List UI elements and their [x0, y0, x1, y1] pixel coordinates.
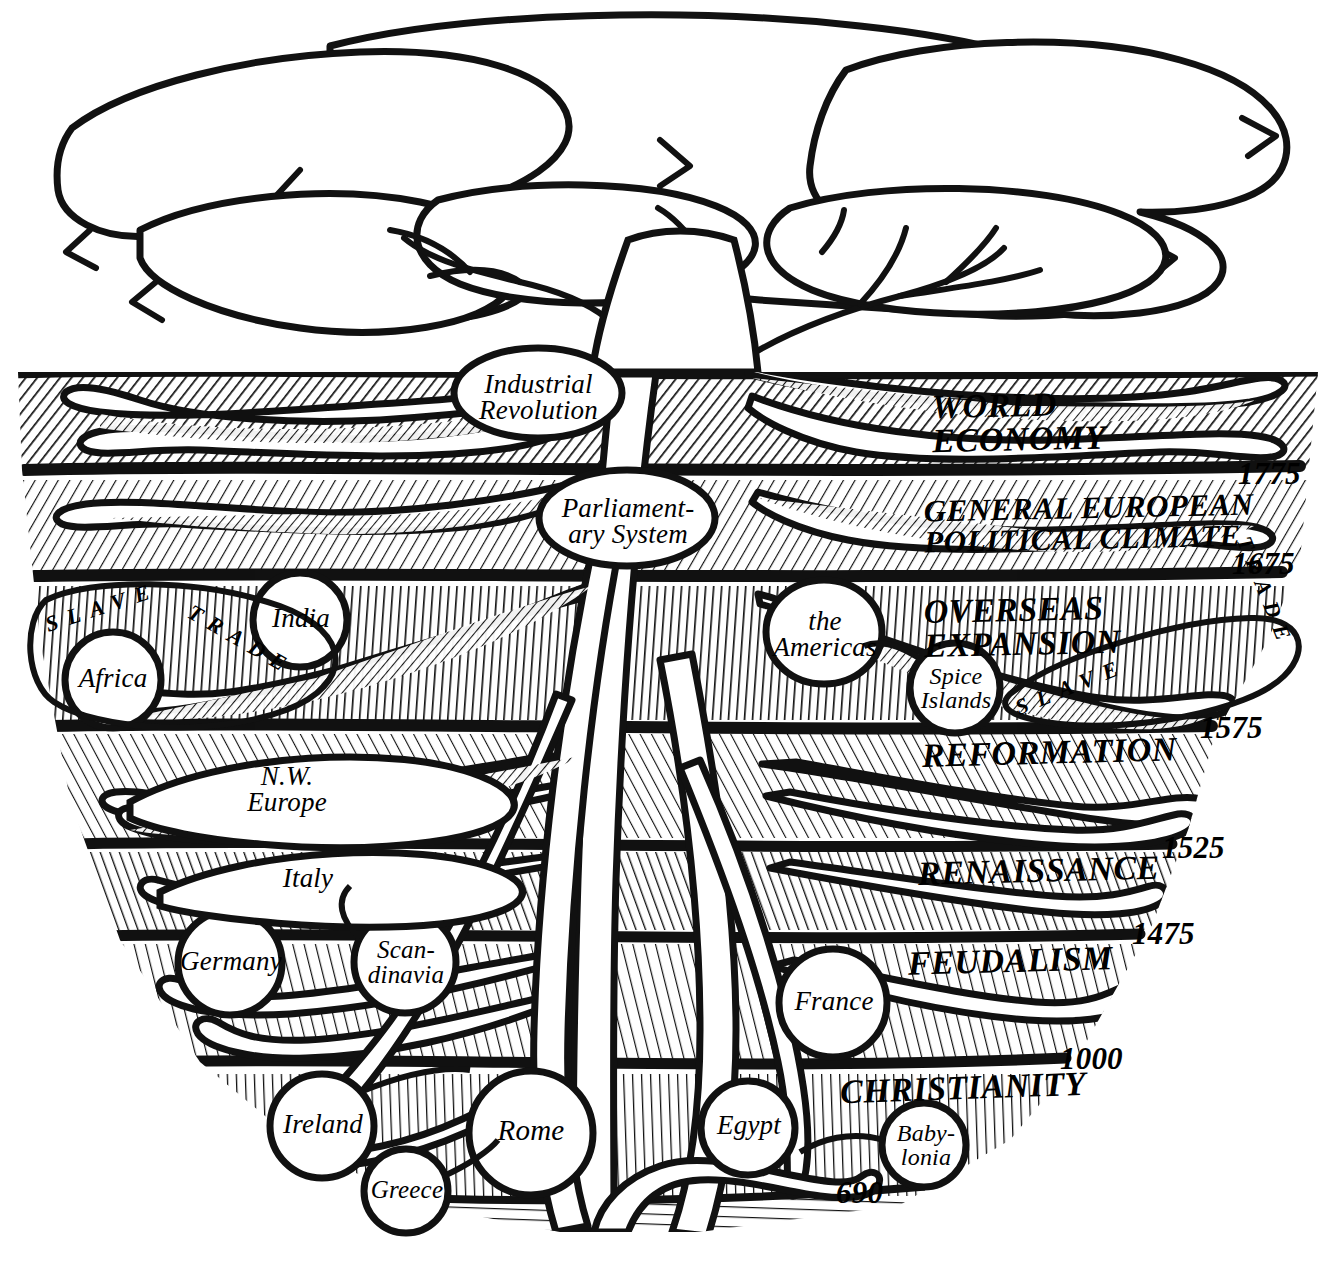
- illustration-canvas: IndustrialRevolution Parliament-ary Syst…: [0, 0, 1325, 1280]
- node-shape-egypt: [701, 1081, 795, 1175]
- canopy-notch-5: [132, 282, 162, 320]
- stratum-bedrock: [0, 1196, 1325, 1280]
- node-shape-spice-islands: [910, 643, 1000, 733]
- node-shape-rome: [469, 1071, 593, 1195]
- node-shape-ireland: [270, 1074, 374, 1178]
- canopy-lobe-lower-right: [767, 188, 1166, 314]
- tree-diagram-artwork: [0, 0, 1325, 1280]
- node-shape-babylonia: [882, 1103, 966, 1187]
- node-shape-greece: [364, 1149, 448, 1233]
- divider-1775: [24, 466, 1300, 470]
- node-shape-france: [779, 949, 887, 1057]
- node-shape-industrial-revolution: [454, 348, 622, 438]
- node-shape-germany: [178, 911, 282, 1015]
- node-shape-the-americas: [766, 580, 882, 684]
- canopy-notch-4: [66, 230, 96, 268]
- divider-1675: [34, 572, 1282, 576]
- node-shape-parliamentary-system: [539, 470, 715, 566]
